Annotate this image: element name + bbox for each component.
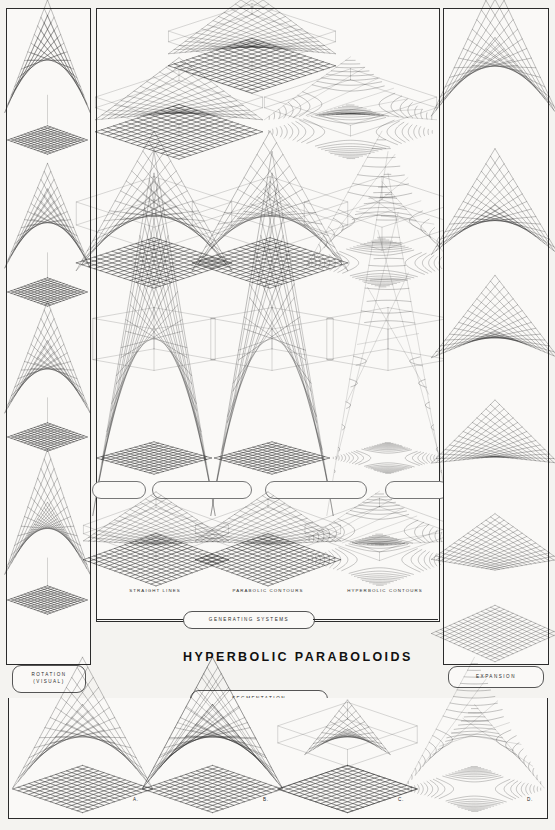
center-row4-figure-2	[212, 505, 324, 577]
center-row3-figure-3	[338, 305, 438, 475]
connector-box-1	[92, 481, 146, 499]
expansion-label: EXPANSION	[448, 666, 544, 688]
center-row2-figure-1	[100, 185, 208, 280]
caption-parabolic-contours: PARABOLIC CONTOURS	[208, 588, 328, 593]
rotation-label-text: ROTATION	[31, 672, 66, 679]
connector-box-2	[152, 481, 252, 499]
panel-letter-c: C.	[398, 797, 404, 802]
expansion-figure-6	[446, 595, 544, 665]
center-row4-figure-1	[100, 505, 212, 577]
center-row1-figure-1	[172, 14, 332, 84]
generating-rule-right	[313, 619, 438, 620]
generating-rule-left	[96, 619, 183, 620]
connector-box-3	[265, 481, 367, 499]
generating-systems-label: GENERATING SYSTEMS	[183, 611, 315, 629]
center-row1-figure-2	[99, 80, 259, 150]
rotation-label: ROTATION (VISUAL)	[12, 665, 86, 693]
center-row3-figure-2	[222, 305, 322, 475]
poster-page: ROTATION (VISUAL) S	[0, 0, 555, 830]
panel-letter-b: B.	[263, 797, 269, 802]
segmentation-figure-a	[20, 705, 145, 810]
center-row1-figure-3	[268, 80, 433, 150]
rotation-sublabel-text: (VISUAL)	[33, 679, 64, 686]
expansion-figure-4	[446, 395, 544, 487]
expansion-figure-1	[446, 12, 544, 104]
rotation-figure-2	[8, 180, 87, 320]
segmentation-figure-d	[412, 705, 537, 810]
segmentation-figure-c	[285, 705, 410, 810]
panel-letter-d: D.	[527, 797, 533, 802]
rotation-figure-1	[8, 12, 87, 172]
center-row2-figure-3	[328, 185, 436, 280]
segmentation-figure-b	[150, 705, 275, 810]
center-row2-figure-2	[216, 185, 324, 280]
rotation-figure-4	[8, 480, 87, 630]
rotation-figure-3	[8, 325, 87, 465]
center-row3-figure-1	[104, 305, 204, 475]
page-title: HYPERBOLIC PARABOLOIDS	[183, 650, 413, 664]
connector-box-4	[385, 481, 449, 499]
caption-hyperbolic-contours: HYPERBOLIC CONTOURS	[325, 588, 445, 593]
center-row4-figure-3	[322, 505, 437, 577]
caption-straight-lines: STRAIGHT LINES	[100, 588, 210, 593]
expansion-figure-3	[446, 280, 544, 372]
expansion-figure-5	[446, 500, 544, 592]
expansion-figure-2	[446, 165, 544, 257]
panel-letter-a: A.	[133, 797, 139, 802]
